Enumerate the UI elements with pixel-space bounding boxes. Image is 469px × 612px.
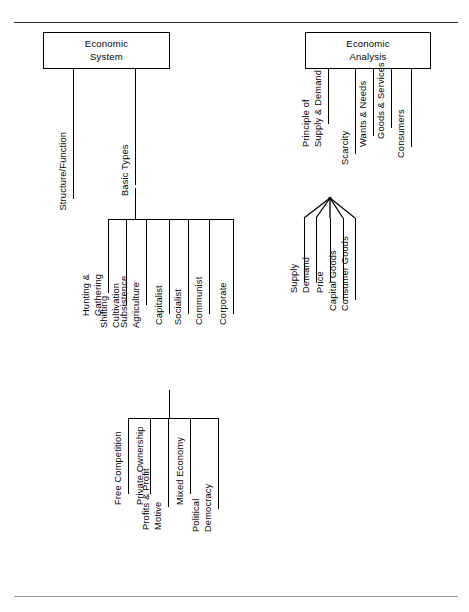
connector-supply-demand-4 [355,218,356,300]
label-structure-function: Structure/Function [58,132,70,211]
connector-basic-type-2 [146,219,147,305]
label-supply-demand-demand: Demand [301,257,312,293]
diagram-canvas: Economic System Structure/Function Basic… [0,0,469,612]
label-supply-demand-capital-goods: Capital Goods [328,250,339,311]
connector-capitalist-stem [169,390,170,418]
label-basic-type-socialist: Socialist [173,289,184,325]
node-economic-analysis-line1: Economic [346,38,389,51]
node-economic-system[interactable]: Economic System [43,32,170,69]
connector-capitalist-attr-4 [218,418,219,509]
label-capitalist-attr-profits-profit-motive: Profits & Profit Motive [141,468,164,530]
node-economic-analysis[interactable]: Economic Analysis [305,32,431,69]
label-basic-types: Basic Types [120,144,131,196]
bracket-capitalist-attributes [128,418,218,419]
label-analysis-goods-services: Goods & Services [376,62,387,139]
label-basic-type-communist: Communist [194,277,205,325]
label-analysis-wants-needs: Wants & Needs [358,81,369,147]
connector-capitalist-attr-2 [168,418,169,507]
label-analysis-consumers: Consumers [396,109,407,158]
connector-capitalist-attr-0 [128,418,129,494]
connector-basic-types-stem [135,188,136,219]
connector-basic-type-3 [169,219,170,314]
top-divider-rule [14,22,458,23]
label-supply-demand-supply: Supply [289,264,300,293]
label-basic-type-corporate: Corporate [218,282,229,325]
label-capitalist-attr-political-democracy: Political Democracy [191,484,214,532]
connector-basic-type-4 [188,219,189,314]
bottom-divider-rule [14,596,458,597]
label-supply-demand-price: Price [315,271,326,293]
node-economic-system-line2: System [90,51,123,64]
connector-analysis-3 [391,69,392,128]
connector-structure-function [73,69,74,199]
label-basic-type-subsistence-agriculture: Subsistence Agriculture [119,276,142,328]
connector-capitalist-attr-3 [190,418,191,494]
connector-analysis-0 [328,69,329,124]
label-capitalist-attr-free-competition: Free Competition [113,431,124,505]
label-supply-demand-consumer-goods: Consumer Goods [340,236,351,311]
connector-basic-type-0 [108,219,109,293]
label-basic-type-capitalist: Capitalist [154,285,165,325]
label-analysis-principle-supply-demand: Principle of Supply & Demand [301,70,324,147]
node-economic-system-line1: Economic [85,38,128,51]
connector-analysis-2 [373,69,374,136]
connector-analysis-4 [411,69,412,147]
label-analysis-scarcity: Scarcity [340,131,351,165]
connector-basic-types [135,69,136,185]
label-capitalist-attr-mixed-economy: Mixed Economy [175,437,186,505]
connector-analysis-1 [355,69,356,154]
connector-basic-type-6 [233,219,234,314]
connector-basic-type-5 [209,219,210,314]
